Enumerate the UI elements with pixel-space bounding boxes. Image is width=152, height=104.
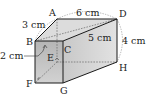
vertex-label-a: A <box>48 7 56 18</box>
measurement-6cm: 6 cm <box>76 7 99 18</box>
measurement-5cm: 5 cm <box>88 32 111 43</box>
vertex-label-f: F <box>26 78 33 89</box>
vertex-label-c: C <box>64 44 71 55</box>
measurement-3cm: 3 cm <box>22 19 45 30</box>
measurement-4cm: 4 cm <box>122 35 145 46</box>
vertex-label-d: D <box>119 8 127 19</box>
vertex-label-b: B <box>26 36 33 47</box>
vertex-label-e: E <box>47 52 54 63</box>
measurement-2cm: 2 cm <box>0 50 23 61</box>
prism-diagram: A D B C E F G H 6 cm 3 cm 5 cm 4 cm 2 cm <box>0 0 152 104</box>
vertex-label-h: H <box>119 62 127 73</box>
vertex-label-g: G <box>60 85 68 96</box>
